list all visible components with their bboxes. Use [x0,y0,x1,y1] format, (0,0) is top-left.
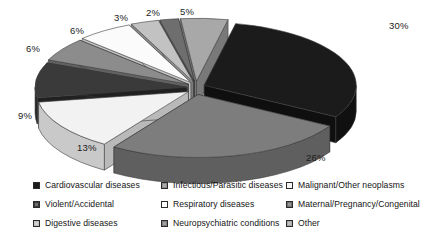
legend-item-maternal[interactable]: Maternal/Pregnancy/Congenital [286,195,433,214]
legend-item-infectious[interactable]: Infectious/Parasitic diseases [161,176,286,195]
legend-label-malignant: Malignant/Other neoplasms [298,181,404,190]
legend-swatch-neuropsychiatric [161,220,168,227]
legend-label-cardiovascular: Cardiovascular diseases [45,181,140,190]
legend-item-other[interactable]: Other [286,214,433,233]
slice-label-2: 2% [146,7,160,18]
legend-swatch-infectious [161,182,168,189]
legend-label-other: Other [298,219,320,228]
legend-item-violent[interactable]: Violent/Accidental [33,195,161,214]
slice-label-13: 13% [77,142,97,153]
legend-swatch-respiratory [161,201,168,208]
slice-label-6-infectious: 6% [70,25,84,36]
legend-swatch-maternal [286,201,293,208]
legend-swatch-digestive [33,220,40,227]
legend-item-neuropsychiatric[interactable]: Neuropsychiatric conditions [161,214,286,233]
legend-item-digestive[interactable]: Digestive diseases [33,214,161,233]
legend-label-neuropsychiatric: Neuropsychiatric conditions [173,219,279,228]
legend-item-malignant[interactable]: Malignant/Other neoplasms [286,176,433,195]
slice-label-3: 3% [114,12,128,23]
slice-label-6-respiratory: 6% [26,43,40,54]
legend-label-infectious: Infectious/Parasitic diseases [173,181,283,190]
legend-swatch-cardiovascular [33,182,40,189]
slice-label-5: 5% [180,6,194,17]
legend-swatch-violent [33,201,40,208]
legend-swatch-other [286,220,293,227]
legend-item-respiratory[interactable]: Respiratory diseases [161,195,286,214]
slice-label-30: 30% [389,20,409,31]
legend-label-maternal: Maternal/Pregnancy/Congenital [298,200,420,209]
legend-swatch-malignant [286,182,293,189]
legend-label-digestive: Digestive diseases [45,219,118,228]
chart-legend: Cardiovascular diseases Infectious/Paras… [33,176,433,232]
slice-label-9: 9% [18,110,32,121]
legend-label-violent: Violent/Accidental [45,200,114,209]
slice-label-26: 26% [306,152,326,163]
legend-label-respiratory: Respiratory diseases [173,200,254,209]
legend-item-cardiovascular[interactable]: Cardiovascular diseases [33,176,161,195]
